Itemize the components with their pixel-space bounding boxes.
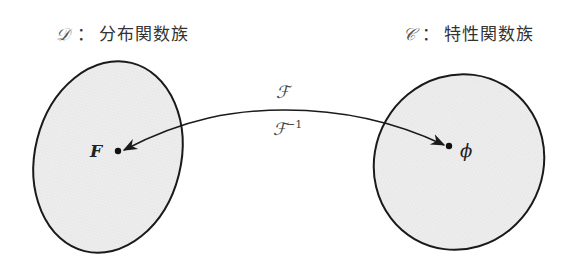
characteristic-set-region	[342, 43, 576, 271]
inverse-transform-label: ℱ−1	[273, 118, 302, 139]
inverse-transform-exponent: −1	[286, 118, 302, 131]
forward-transform-label: ℱ	[276, 82, 293, 102]
point-phi-dot	[446, 143, 452, 149]
point-F-dot	[115, 148, 121, 154]
point-phi-label: ϕ	[460, 140, 472, 161]
mapping-diagram: F ϕ ℱ ℱ−1	[0, 0, 576, 271]
distribution-set-region	[14, 45, 203, 269]
point-F-label: F	[89, 141, 104, 161]
